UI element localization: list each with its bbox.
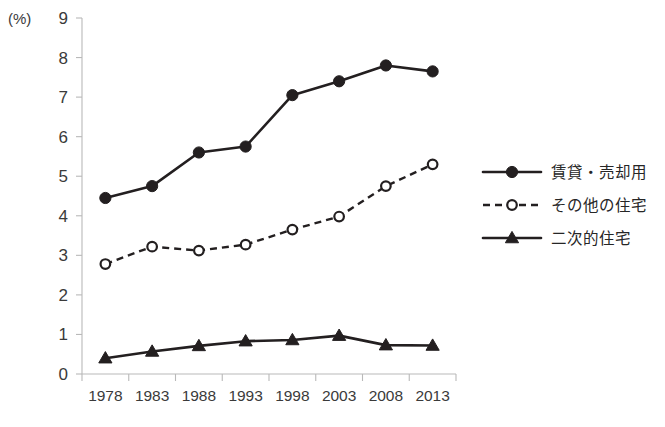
- data-point-marker: [240, 141, 251, 152]
- data-point-marker: [288, 225, 298, 235]
- y-axis-tick-label: 0: [59, 365, 68, 384]
- y-axis-tick-label: 2: [59, 286, 68, 305]
- data-point-marker: [334, 212, 344, 222]
- legend-label: 二次的住宅: [551, 230, 631, 247]
- x-axis-tick-label: 2013: [415, 387, 449, 404]
- data-point-marker: [287, 90, 298, 101]
- x-axis-tick-label: 1983: [135, 387, 169, 404]
- y-axis-tick-label: 1: [59, 325, 68, 344]
- y-axis-tick-label: 3: [59, 246, 68, 265]
- y-axis-unit-label-text: (%): [8, 10, 31, 27]
- line-chart: 0123456789 19781983198819931998200320082…: [0, 0, 665, 427]
- data-point-marker: [147, 242, 157, 252]
- chart-legend: 賃貸・売却用その他の住宅二次的住宅: [483, 164, 647, 247]
- data-point-marker: [241, 240, 251, 250]
- legend-label: その他の住宅: [551, 197, 647, 214]
- x-axis-tick-label: 1988: [182, 387, 216, 404]
- data-point-marker: [101, 259, 111, 269]
- chart-container: 0123456789 19781983198819931998200320082…: [0, 0, 665, 427]
- x-axis-tick-label: 1993: [228, 387, 262, 404]
- data-point-marker: [333, 329, 346, 340]
- y-axis-tick-label: 7: [59, 88, 68, 107]
- legend-item-3[interactable]: 二次的住宅: [483, 230, 631, 247]
- legend-item-1[interactable]: 賃貸・売却用: [483, 164, 647, 181]
- legend-label: 賃貸・売却用: [551, 164, 647, 181]
- legend-item-2[interactable]: その他の住宅: [483, 197, 647, 214]
- data-point-marker: [147, 181, 158, 192]
- axes: [76, 18, 456, 381]
- legend-marker-sample: [507, 200, 517, 210]
- data-series-group: [99, 60, 439, 363]
- series-line: [105, 65, 432, 198]
- data-point-marker: [334, 76, 345, 87]
- data-point-marker: [380, 60, 391, 71]
- x-axis-tick-label: 1978: [88, 387, 122, 404]
- data-point-marker: [428, 160, 438, 170]
- y-axis-tick-label: 5: [59, 167, 68, 186]
- data-point-marker: [427, 66, 438, 77]
- data-point-marker: [381, 181, 391, 191]
- data-series-3: [99, 329, 439, 363]
- data-point-marker: [193, 147, 204, 158]
- y-axis-tick-label: 8: [59, 49, 68, 68]
- y-axis-tick-labels: 0123456789: [59, 9, 68, 384]
- x-axis-tick-labels: 19781983198819931998200320082013: [88, 387, 450, 404]
- legend-marker-sample: [506, 166, 517, 177]
- y-axis-tick-label: 6: [59, 128, 68, 147]
- x-axis-tick-label: 1998: [275, 387, 309, 404]
- y-axis-tick-label: 4: [59, 207, 68, 226]
- data-series-2: [101, 160, 438, 269]
- y-axis-tick-label: 9: [59, 9, 68, 28]
- data-point-marker: [100, 192, 111, 203]
- x-axis-tick-label: 2008: [369, 387, 403, 404]
- x-axis-tick-label: 2003: [322, 387, 356, 404]
- data-point-marker: [194, 246, 204, 256]
- y-axis-unit-label: (%): [8, 10, 31, 27]
